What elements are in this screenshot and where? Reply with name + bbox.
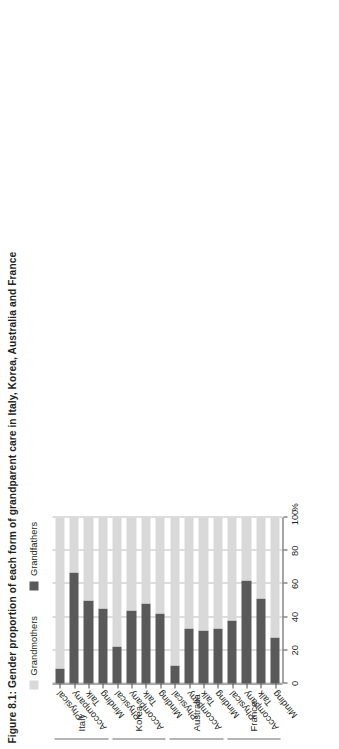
bar-segment-grandmothers bbox=[98, 517, 107, 608]
bar-row bbox=[170, 517, 179, 683]
bar-segment-grandfathers bbox=[227, 620, 236, 683]
value-tick-label: 60 bbox=[289, 578, 299, 588]
legend-swatch-icon bbox=[29, 680, 38, 689]
bar-row bbox=[270, 517, 279, 683]
legend-item: Grandmothers bbox=[28, 616, 38, 689]
bar-segment-grandfathers bbox=[98, 608, 107, 683]
bar-row bbox=[83, 517, 92, 683]
value-tick bbox=[283, 516, 287, 517]
bar-segment-grandfathers bbox=[112, 646, 121, 683]
category-tick bbox=[59, 683, 60, 688]
figure-title: Figure 8.1: Gender proportion of each fo… bbox=[6, 251, 17, 743]
bar-segment-grandfathers bbox=[55, 668, 64, 683]
group-bracket: Australia bbox=[169, 689, 223, 739]
bar-segment-grandfathers bbox=[241, 580, 250, 683]
group-bracket-line bbox=[54, 738, 108, 739]
group-bracket-line bbox=[112, 738, 166, 739]
legend-label: Grandmothers bbox=[28, 616, 38, 675]
bar-row bbox=[213, 517, 222, 683]
group-name-label: Italy bbox=[75, 713, 86, 731]
category-tick bbox=[260, 683, 261, 688]
bar-segment-grandfathers bbox=[141, 603, 150, 683]
bar-segment-grandfathers bbox=[256, 598, 265, 683]
bar-segment-grandfathers bbox=[69, 572, 78, 683]
bar-row bbox=[126, 517, 135, 683]
figure-rotated-wrapper: Figure 8.1: Gender proportion of each fo… bbox=[0, 0, 339, 749]
value-tick bbox=[283, 649, 287, 650]
group-bracket-line bbox=[169, 738, 223, 739]
category-tick bbox=[102, 683, 103, 688]
bar-row bbox=[184, 517, 193, 683]
bar-row bbox=[69, 517, 78, 683]
plot-area: PhysicalAccompanyTalkMindingItalyPhysica… bbox=[52, 517, 282, 683]
category-tick bbox=[189, 683, 190, 688]
bar-segment-grandmothers bbox=[270, 517, 279, 637]
category-tick bbox=[275, 683, 276, 688]
bar-segment-grandmothers bbox=[170, 517, 179, 665]
bar-segment-grandmothers bbox=[227, 517, 236, 620]
value-tick-label: 80 bbox=[289, 545, 299, 555]
value-axis-line bbox=[282, 517, 283, 683]
bar-segment-grandfathers bbox=[270, 637, 279, 683]
category-tick bbox=[117, 683, 118, 688]
bar-row bbox=[55, 517, 64, 683]
category-tick bbox=[88, 683, 89, 688]
axis-unit-label: % bbox=[289, 503, 299, 511]
bar-segment-grandmothers bbox=[112, 517, 121, 646]
bar-row bbox=[227, 517, 236, 683]
bar-row bbox=[256, 517, 265, 683]
group-name-label: Australia bbox=[190, 694, 201, 731]
category-tick bbox=[232, 683, 233, 688]
value-tick-label: 20 bbox=[289, 645, 299, 655]
bar-row bbox=[98, 517, 107, 683]
bar-segment-grandmothers bbox=[55, 517, 64, 668]
bar-segment-grandfathers bbox=[198, 630, 207, 683]
category-tick bbox=[145, 683, 146, 688]
group-bracket: Korea bbox=[112, 689, 166, 739]
bar-row bbox=[141, 517, 150, 683]
group-bracket: France bbox=[227, 689, 281, 739]
bar-segment-grandmothers bbox=[198, 517, 207, 630]
bar-segment-grandmothers bbox=[184, 517, 193, 628]
bar-segment-grandfathers bbox=[184, 628, 193, 683]
value-tick bbox=[283, 616, 287, 617]
category-tick bbox=[131, 683, 132, 688]
bar-segment-grandmothers bbox=[69, 517, 78, 572]
bar-segment-grandmothers bbox=[213, 517, 222, 628]
bar-segment-grandfathers bbox=[83, 600, 92, 683]
category-tick bbox=[217, 683, 218, 688]
value-tick bbox=[283, 682, 287, 683]
bar-segment-grandmothers bbox=[141, 517, 150, 603]
bar-row bbox=[112, 517, 121, 683]
legend: GrandmothersGrandfathers bbox=[28, 521, 38, 689]
bar-row bbox=[241, 517, 250, 683]
value-tick bbox=[283, 549, 287, 550]
category-tick bbox=[203, 683, 204, 688]
legend-swatch-icon bbox=[29, 581, 38, 590]
bar-segment-grandfathers bbox=[126, 610, 135, 683]
bar-segment-grandfathers bbox=[155, 613, 164, 683]
value-tick bbox=[283, 582, 287, 583]
group-bracket-line bbox=[227, 738, 281, 739]
legend-item: Grandfathers bbox=[28, 521, 38, 589]
group-name-label: France bbox=[248, 701, 259, 731]
legend-label: Grandfathers bbox=[28, 521, 38, 575]
bar-segment-grandfathers bbox=[213, 628, 222, 683]
bar-row bbox=[155, 517, 164, 683]
bar-segment-grandmothers bbox=[256, 517, 265, 598]
bar-row bbox=[198, 517, 207, 683]
value-tick-label: 100 bbox=[289, 509, 299, 525]
bar-segment-grandfathers bbox=[170, 665, 179, 683]
category-tick bbox=[160, 683, 161, 688]
bar-segment-grandmothers bbox=[155, 517, 164, 613]
category-tick bbox=[74, 683, 75, 688]
group-name-label: Korea bbox=[133, 705, 144, 731]
figure-container: Figure 8.1: Gender proportion of each fo… bbox=[0, 0, 339, 749]
category-tick bbox=[246, 683, 247, 688]
bar-segment-grandmothers bbox=[241, 517, 250, 580]
value-tick-label: 0 bbox=[289, 680, 299, 685]
value-tick-label: 40 bbox=[289, 611, 299, 621]
group-bracket: Italy bbox=[54, 689, 108, 739]
category-tick bbox=[174, 683, 175, 688]
bar-segment-grandmothers bbox=[83, 517, 92, 600]
